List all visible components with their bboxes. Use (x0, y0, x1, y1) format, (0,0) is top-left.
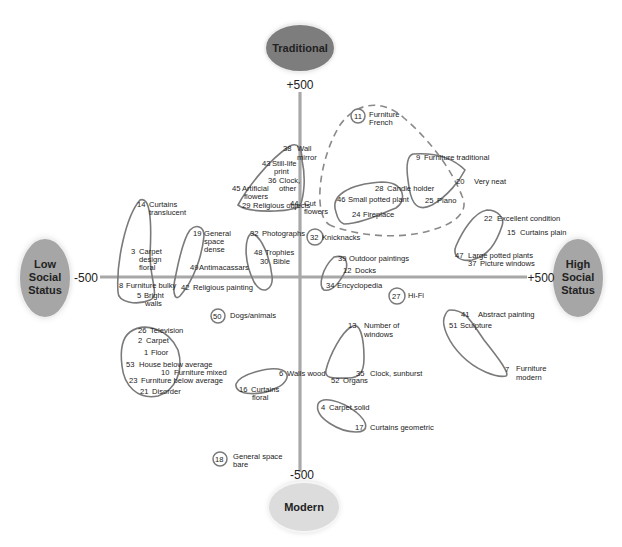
svg-text:2: 2 (138, 336, 142, 345)
item-22-excellent-condition: 22 Excellent condition (484, 214, 560, 223)
svg-text:walls: walls (144, 299, 162, 308)
svg-text:Trophies: Trophies (265, 248, 294, 257)
svg-text:Religious painting: Religious painting (193, 283, 253, 292)
item-30-bible: 30 Bible (260, 257, 290, 266)
svg-text:36: 36 (268, 176, 276, 185)
svg-text:translucent: translucent (149, 208, 187, 217)
svg-text:Excellent condition: Excellent condition (497, 214, 560, 223)
svg-text:Social: Social (29, 271, 61, 283)
item-19-general-space-dense: 19 General space dense (193, 229, 231, 254)
svg-text:15: 15 (507, 228, 515, 237)
svg-text:25: 25 (425, 196, 433, 205)
svg-text:17: 17 (355, 423, 363, 432)
svg-text:9: 9 (416, 153, 420, 162)
svg-text:Very neat: Very neat (474, 177, 507, 186)
item-4-carpet-solid: 4 Carpet solid (321, 403, 370, 412)
svg-text:Floor: Floor (151, 348, 169, 357)
item-49-antimacassars: 49 Antimacassars (190, 263, 249, 272)
svg-text:Furniture: Furniture (516, 364, 546, 373)
svg-text:45: 45 (232, 184, 240, 193)
svg-text:Small potted plant: Small potted plant (348, 195, 410, 204)
svg-text:Number of: Number of (364, 321, 400, 330)
pole-high-social-status: High Social Status (546, 230, 610, 326)
svg-text:27: 27 (392, 292, 400, 301)
pole-low-social-status: Low Social Status (13, 230, 77, 326)
svg-text:16: 16 (239, 385, 247, 394)
item-44-cut-flowers: 44 Cut flowers (290, 199, 328, 216)
svg-text:Piano: Piano (437, 196, 456, 205)
svg-text:18: 18 (215, 455, 223, 464)
svg-text:Sculpture: Sculpture (460, 321, 492, 330)
social-status-taste-diagram: Traditional +500 Modern -500 Low Social … (0, 0, 622, 547)
item-48-trophies: 48 Trophies (254, 248, 294, 257)
item-21-disorder: 21 Disorder (140, 387, 181, 396)
svg-text:Organs: Organs (343, 376, 368, 385)
svg-text:39: 39 (338, 254, 346, 263)
svg-text:High: High (566, 258, 591, 270)
svg-text:26: 26 (138, 326, 146, 335)
bottom-axis-value: -500 (290, 468, 314, 482)
svg-text:28: 28 (375, 184, 383, 193)
svg-text:Walls wood: Walls wood (287, 369, 326, 378)
svg-text:11: 11 (354, 112, 362, 121)
svg-text:51: 51 (449, 321, 457, 330)
svg-text:42: 42 (181, 283, 189, 292)
svg-text:Television: Television (150, 326, 183, 335)
svg-text:French: French (369, 118, 393, 127)
svg-text:21: 21 (140, 387, 148, 396)
item-27-hi-fi: 27 Hi-Fi (392, 291, 424, 301)
svg-text:Bible: Bible (273, 257, 290, 266)
item-25-piano: 25 Piano (425, 196, 456, 205)
svg-text:Clock, sunburst: Clock, sunburst (370, 369, 423, 378)
left-axis-value: -500 (74, 271, 98, 285)
svg-text:5: 5 (137, 291, 141, 300)
svg-text:Hi-Fi: Hi-Fi (408, 291, 424, 300)
svg-text:44: 44 (290, 199, 298, 208)
svg-text:flowers: flowers (304, 207, 328, 216)
item-28-candle-holder: 28 Candle holder (375, 184, 435, 193)
svg-text:Low: Low (34, 258, 56, 270)
item-43-still-life-print: 43 Still-life print (262, 159, 296, 176)
item-52-organs: 52 Organs (331, 376, 368, 385)
svg-text:34: 34 (326, 281, 334, 290)
svg-text:Antimacassars: Antimacassars (199, 263, 249, 272)
svg-text:1: 1 (144, 348, 148, 357)
svg-text:32: 32 (310, 233, 318, 242)
svg-text:47: 47 (455, 251, 463, 260)
svg-text:dense: dense (204, 245, 225, 254)
svg-text:7: 7 (505, 365, 509, 374)
svg-text:12: 12 (343, 266, 351, 275)
svg-text:flowers: flowers (244, 192, 268, 201)
svg-text:38: 38 (283, 144, 291, 153)
item-37-picture-windows: 37 Picture windows (468, 259, 535, 268)
item-42-religious-painting: 42 Religious painting (181, 283, 253, 292)
item-39-outdoor-paintings: 39 Outdoor paintings (338, 254, 409, 263)
item-12-docks: 12 Docks (343, 266, 376, 275)
svg-text:Curtains geometric: Curtains geometric (370, 423, 434, 432)
svg-text:24: 24 (352, 210, 360, 219)
svg-text:Status: Status (28, 284, 62, 296)
item-2-carpet: 2 Carpet (138, 336, 170, 345)
top-axis-value: +500 (286, 78, 313, 92)
svg-text:20: 20 (456, 177, 464, 186)
item-1-floor: 1 Floor (144, 348, 169, 357)
svg-text:52: 52 (331, 376, 339, 385)
pole-traditional: Traditional (260, 18, 340, 78)
item-34-encyclopedia: 34 Encyclopedia (326, 281, 383, 290)
svg-text:bare: bare (233, 460, 248, 469)
pole-modern: Modern (262, 475, 346, 539)
item-7-furniture-modern: 7 Furniture modern (505, 364, 546, 382)
svg-text:Wall: Wall (297, 144, 312, 153)
svg-text:Modern: Modern (284, 501, 324, 513)
item-13-number-of-windows: 13 Number of windows (348, 321, 400, 339)
svg-text:Candle holder: Candle holder (387, 184, 435, 193)
item-46-small-potted-plant: 46 Small potted plant (337, 195, 410, 204)
svg-text:53: 53 (126, 360, 134, 369)
item-15-curtains-plain: 15 Curtains plain (507, 228, 566, 237)
svg-text:print: print (274, 167, 290, 176)
cluster-abstract-painting (444, 310, 507, 376)
item-3-carpet-design-floral: 3 Carpet design floral (131, 247, 163, 272)
svg-text:43: 43 (262, 159, 270, 168)
svg-text:floral: floral (139, 263, 156, 272)
svg-text:19: 19 (193, 229, 201, 238)
